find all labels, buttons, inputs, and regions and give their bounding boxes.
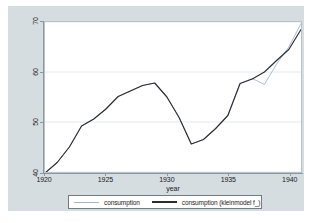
- x-axis-line: [43, 173, 303, 174]
- y-tick-mark: [40, 21, 43, 22]
- plot-lines: [45, 22, 301, 172]
- y-tick-mark: [40, 173, 43, 174]
- y-axis-line: [43, 21, 44, 174]
- chart-canvas: 40506070 19201925193019351940 year consu…: [8, 6, 304, 211]
- x-tick-mark: [105, 173, 106, 176]
- plot-area: [44, 21, 302, 173]
- x-tick-label: 1935: [213, 176, 243, 183]
- x-tick-mark: [290, 173, 291, 176]
- y-tick-mark: [40, 72, 43, 73]
- legend-label-consumption: consumption: [104, 199, 140, 206]
- chart-screenshot: 40506070 19201925193019351940 year consu…: [0, 0, 313, 223]
- legend-item-consumption[interactable]: consumption: [74, 196, 140, 208]
- x-tick-label: 1930: [152, 176, 182, 183]
- x-tick-mark: [228, 173, 229, 176]
- x-tick-label: 1920: [29, 176, 59, 183]
- y-tick-mark: [40, 122, 43, 123]
- x-tick-label: 1925: [90, 176, 120, 183]
- line-chart-svg: [45, 22, 301, 172]
- legend-item-consumption-fitted[interactable]: consumption (kleinmodel f_): [152, 196, 261, 208]
- legend-key-consumption-icon: [74, 202, 99, 203]
- x-axis-title: year: [44, 185, 302, 192]
- legend-label-consumption-fitted: consumption (kleinmodel f_): [182, 199, 261, 206]
- x-tick-mark: [44, 173, 45, 176]
- x-tick-label: 1940: [275, 176, 305, 183]
- legend-key-consumption-fitted-icon: [152, 201, 177, 202]
- chart-legend: consumption consumption (kleinmodel f_): [68, 195, 262, 209]
- x-tick-mark: [167, 173, 168, 176]
